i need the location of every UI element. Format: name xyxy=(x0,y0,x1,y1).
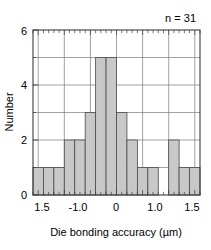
y-tick-label-0: 0 xyxy=(21,189,27,201)
x-tick-label-3: 1.0 xyxy=(147,201,162,213)
bar-4 xyxy=(75,140,85,195)
bar-14 xyxy=(179,168,189,196)
bar-13 xyxy=(169,140,179,195)
x-tick-label-0: 1.5 xyxy=(34,201,49,213)
histogram-figure: 1.5 -1.0 0 1.0 1.5 0 2 4 6 Number Die bo… xyxy=(0,0,211,250)
x-tick-label-1: -1.0 xyxy=(69,201,88,213)
bar-8 xyxy=(117,113,127,196)
bar-5 xyxy=(85,113,95,196)
sample-size-annotation: n = 31 xyxy=(165,12,196,24)
y-axis-title: Number xyxy=(3,92,15,131)
bar-6 xyxy=(96,58,106,196)
y-tick-label-3: 6 xyxy=(21,25,27,37)
y-tick-label-1: 2 xyxy=(21,134,27,146)
chart-canvas: 1.5 -1.0 0 1.0 1.5 0 2 4 6 Number Die bo… xyxy=(0,0,211,250)
y-tick-label-2: 4 xyxy=(21,79,27,91)
bar-3 xyxy=(64,140,74,195)
bar-7 xyxy=(106,58,116,196)
x-axis-title: Die bonding accuracy (µm) xyxy=(50,226,182,238)
bar-1 xyxy=(43,168,53,196)
bar-2 xyxy=(54,168,64,196)
bar-11 xyxy=(148,168,158,196)
x-tick-label-4: 1.5 xyxy=(184,201,199,213)
bar-9 xyxy=(127,140,137,195)
x-tick-label-2: 0 xyxy=(113,201,119,213)
